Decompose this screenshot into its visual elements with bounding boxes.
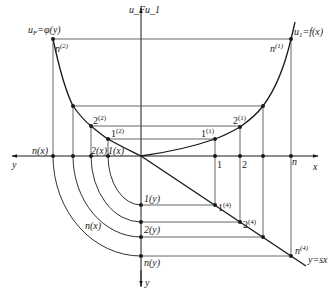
label-line-y-sx: y=sx: [307, 254, 328, 265]
diagram-stage: u_F u_1 x y y uF=φ(y) u1=f(x) y=sx n(2) …: [0, 0, 335, 293]
label-curve-phi: uF=φ(y): [28, 24, 61, 37]
arc-2: [91, 156, 141, 222]
label-1y: 1(y): [144, 193, 161, 205]
label-uF-axis: u_F: [129, 4, 146, 15]
label-x-axis: x: [312, 161, 318, 172]
label-2x: 2(x): [91, 145, 108, 157]
label-arc-nx: n(x): [85, 220, 102, 232]
label-2-2: 2(2): [93, 114, 107, 126]
label-x-2: 2: [242, 159, 247, 170]
label-curve-f: u1=f(x): [294, 26, 324, 39]
line-y-sx: [141, 156, 306, 266]
label-y-left: y: [11, 159, 17, 170]
label-x-1: 1: [217, 159, 222, 170]
label-n4: n(4): [295, 244, 309, 256]
label-1x: 1(x): [108, 145, 125, 157]
label-1-2: 1(2): [111, 127, 125, 139]
diagram-canvas: u_F u_1 x y y uF=φ(y) u1=f(x) y=sx n(2) …: [0, 0, 335, 293]
label-n2: n(2): [55, 42, 69, 54]
arc-n: [53, 156, 141, 256]
label-ny: n(y): [144, 257, 161, 269]
label-u1-axis: u_1: [145, 4, 160, 15]
label-1-1: 1(1): [201, 127, 215, 139]
label-y-bottom: y: [144, 277, 150, 288]
label-2y: 2(y): [144, 224, 161, 236]
label-nx: n(x): [32, 145, 49, 157]
curve-phi: [53, 39, 141, 156]
arc-3: [73, 156, 141, 237]
label-n1: n(1): [270, 42, 284, 54]
label-x-n: n: [292, 156, 297, 167]
arc-1: [108, 156, 141, 205]
